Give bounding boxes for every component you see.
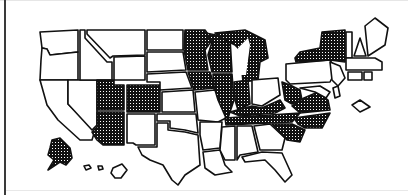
state-nm <box>127 114 155 145</box>
state-nj <box>330 62 345 86</box>
state-me <box>365 18 388 56</box>
state-sd <box>147 52 186 72</box>
state-nc <box>294 113 330 128</box>
state-ct <box>348 72 362 80</box>
state-co <box>127 85 160 112</box>
state-pa <box>286 60 336 84</box>
state-fl <box>242 152 292 182</box>
state-wy <box>114 56 145 80</box>
state-ms <box>220 126 235 160</box>
state-ma <box>346 58 382 70</box>
state-hi-2 <box>98 166 103 170</box>
state-hi-3 <box>111 164 127 178</box>
state-nd <box>147 30 183 50</box>
state-ks <box>162 90 195 112</box>
state-de <box>333 86 340 98</box>
island-puerto-rico <box>352 100 370 112</box>
state-ri <box>364 72 372 80</box>
state-ny <box>295 30 345 62</box>
state-az <box>92 112 124 145</box>
state-ar <box>200 122 222 150</box>
us-map <box>0 0 408 195</box>
state-in <box>234 80 250 110</box>
state-vt <box>346 32 352 58</box>
state-ak <box>48 138 72 170</box>
state-hi-1 <box>84 165 91 170</box>
state-ut <box>97 80 124 110</box>
state-nh <box>354 38 366 56</box>
